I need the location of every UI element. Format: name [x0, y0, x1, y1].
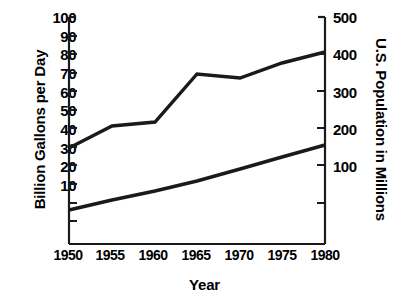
- series-line-water-use: [69, 52, 325, 148]
- chart-figure: Billion Gallons per Day U.S. Population …: [0, 0, 409, 303]
- series-line-population: [69, 145, 325, 210]
- right-axis-ticks: [317, 54, 325, 203]
- plot-canvas: [0, 0, 409, 303]
- axis-frame: [69, 17, 325, 244]
- left-axis-ticks: [69, 36, 77, 221]
